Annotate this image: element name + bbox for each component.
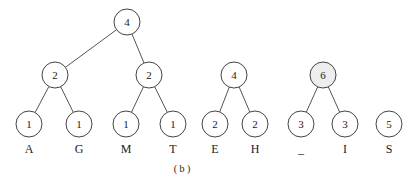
node-weight: 3	[298, 118, 304, 130]
leaf-node: 3I	[332, 111, 358, 156]
edges-layer	[35, 30, 340, 113]
tree-edge	[65, 30, 116, 68]
node-weight: 4	[124, 16, 130, 28]
figure-caption: ( b )	[174, 163, 191, 175]
node-weight: 4	[231, 69, 237, 81]
leaf-symbol-label: _	[297, 142, 305, 156]
tree-edge	[61, 87, 74, 113]
internal-node: 4	[114, 9, 140, 35]
tree-edge	[132, 87, 144, 112]
node-weight: 2	[252, 118, 258, 130]
leaf-node: 2H	[242, 111, 268, 156]
leaf-symbol-label: G	[75, 142, 84, 156]
internal-node: 2	[42, 62, 68, 88]
leaf-symbol-label: A	[25, 142, 34, 156]
leaf-node: 1A	[16, 111, 42, 156]
tree-edge	[155, 87, 168, 113]
tree-edge	[132, 34, 144, 63]
tree-edge	[306, 87, 317, 112]
node-weight: 5	[386, 118, 392, 130]
node-weight: 6	[320, 69, 326, 81]
node-weight: 1	[26, 118, 32, 130]
tree-edge	[328, 87, 339, 112]
leaf-node: 1T	[160, 111, 186, 156]
node-weight: 1	[170, 118, 176, 130]
node-weight: 2	[52, 69, 58, 81]
leaf-symbol-label: M	[121, 142, 132, 156]
leaf-symbol-label: H	[251, 142, 260, 156]
leaf-node: 1M	[113, 111, 139, 156]
leaf-symbol-label: T	[169, 142, 177, 156]
node-weight: 2	[146, 69, 152, 81]
leaf-node: 2E	[202, 111, 228, 156]
node-weight: 1	[76, 118, 82, 130]
leaf-symbol-label: S	[386, 142, 393, 156]
leaf-node: 3_	[288, 111, 314, 156]
internal-node: 4	[221, 62, 247, 88]
node-weight: 1	[123, 118, 129, 130]
leaf-node: 5S	[376, 111, 402, 156]
leaf-symbol-label: I	[343, 142, 347, 156]
tree-edge	[35, 86, 49, 112]
tree-edge	[220, 87, 230, 112]
tree-edge	[239, 87, 250, 112]
internal-node: 2	[136, 62, 162, 88]
huffman-forest-diagram: 4221A1G1M1T42E2H63_3I5S ( b )	[0, 0, 419, 185]
node-weight: 2	[212, 118, 218, 130]
nodes-layer: 4221A1G1M1T42E2H63_3I5S	[16, 9, 402, 156]
leaf-symbol-label: E	[211, 142, 218, 156]
internal-node: 6	[310, 62, 336, 88]
leaf-node: 1G	[66, 111, 92, 156]
node-weight: 3	[342, 118, 348, 130]
